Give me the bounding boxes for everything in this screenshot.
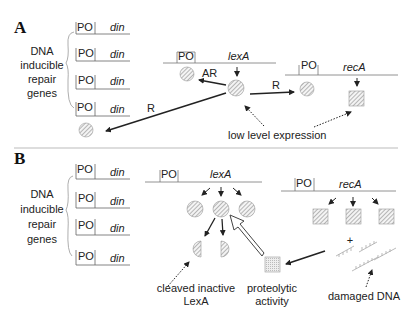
- promoter-label: PO: [301, 59, 317, 71]
- reca-gene-b: PO recA: [281, 177, 396, 191]
- promoter-label: PO: [77, 21, 93, 33]
- promoter-label: PO: [161, 168, 177, 180]
- brace-icon: [66, 176, 73, 256]
- lexa-repressor-bound-reca: [300, 82, 314, 96]
- lexa-protein: [213, 201, 229, 217]
- panel-b-group-label: DNA inducible repair genes: [20, 188, 63, 245]
- panel-a-letter: A: [14, 18, 27, 37]
- din-gene-a3: PO din: [76, 74, 130, 89]
- promoter-label: PO: [78, 47, 94, 59]
- expression-arrow: [372, 198, 378, 204]
- promoter-label: PO: [78, 192, 94, 204]
- cleaved-label-line: cleaved inactive: [157, 282, 235, 294]
- gene-label: lexA: [210, 168, 231, 180]
- promoter-label: PO: [78, 250, 94, 262]
- cleaved-lexa-half: [193, 241, 201, 257]
- hollow-cleavage-arrow: [230, 215, 264, 256]
- gene-label: din: [110, 48, 125, 60]
- lexa-protein: [228, 80, 244, 96]
- gene-label: din: [110, 166, 125, 178]
- panel-b-letter: B: [14, 149, 25, 168]
- autoregulation-label: AR: [202, 67, 217, 79]
- dotted-pointer-lexa: [245, 106, 264, 126]
- gene-label: din: [110, 195, 125, 207]
- lexa-gene-b: PO lexA: [145, 168, 262, 182]
- autoregulation-arrow: [199, 80, 226, 85]
- gene-label: din: [110, 103, 125, 115]
- cleavage-arrow: [205, 218, 215, 236]
- gene-label: din: [110, 252, 125, 264]
- promoter-label: PO: [78, 219, 94, 231]
- lexa-protein: [187, 201, 203, 217]
- gene-label: recA: [339, 178, 362, 190]
- promoter-label: PO: [178, 50, 194, 62]
- dotted-pointer-dna: [366, 270, 372, 287]
- lexa-protein: [239, 201, 255, 217]
- plus-sign: +: [347, 234, 353, 246]
- group-label-line: repair: [28, 73, 56, 85]
- cleavage-arrow: [222, 219, 223, 235]
- brace-icon: [66, 32, 74, 108]
- panel-a-group-label: DNA inducible repair genes: [20, 45, 63, 99]
- group-label-line: inducible: [20, 203, 63, 215]
- repression-arrow-reca: [250, 92, 294, 94]
- expression-arrow: [329, 198, 336, 204]
- sos-response-diagram: A DNA inducible repair genes PO din PO d…: [0, 0, 411, 312]
- lexa-repressor-bound-din: [79, 123, 93, 137]
- lexa-gene-a: PO lexA: [163, 50, 276, 63]
- expression-arrow: [202, 188, 210, 195]
- din-gene-a2: PO din: [76, 47, 130, 61]
- group-label-line: genes: [27, 87, 57, 99]
- group-label-line: DNA: [30, 45, 54, 57]
- promoter-label: PO: [77, 101, 93, 113]
- expression-arrow: [233, 188, 241, 195]
- gene-label: din: [110, 21, 125, 33]
- activated-reca: [265, 257, 280, 272]
- din-gene-b4: PO din: [76, 250, 130, 265]
- reca-protein: [346, 209, 361, 224]
- din-gene-b2: PO din: [76, 192, 130, 208]
- gene-label: din: [110, 75, 125, 87]
- group-label-line: inducible: [20, 59, 63, 71]
- group-label-line: DNA: [30, 188, 54, 200]
- cleaved-lexa-half: [221, 241, 229, 257]
- gene-label: din: [110, 222, 125, 234]
- reca-gene-a: PO recA: [285, 59, 398, 75]
- group-label-line: genes: [27, 233, 57, 245]
- din-gene-b3: PO din: [76, 219, 130, 235]
- damaged-dna-icon: [336, 241, 396, 271]
- repression-label-right: R: [272, 79, 280, 91]
- din-gene-a4: PO din: [76, 101, 130, 116]
- promoter-label: PO: [77, 163, 93, 175]
- lexa-repressor-bound-lexa: [180, 67, 194, 81]
- din-gene-a1: PO din: [76, 21, 130, 34]
- dotted-pointer-reca: [314, 112, 351, 127]
- gene-label: recA: [343, 61, 366, 73]
- gene-label: lexA: [228, 50, 249, 62]
- low-expression-label: low level expression: [228, 129, 326, 141]
- proteolytic-label-line: proteolytic: [247, 282, 298, 294]
- repression-label-left: R: [147, 102, 155, 114]
- din-gene-b1: PO din: [76, 163, 130, 179]
- proteolytic-label-line: activity: [255, 295, 289, 307]
- damaged-dna-label: damaged DNA: [328, 290, 401, 302]
- promoter-label: PO: [296, 177, 312, 189]
- reca-protein: [349, 91, 364, 106]
- reca-protein: [379, 209, 394, 224]
- promoter-label: PO: [78, 74, 94, 86]
- activation-arrow: [286, 251, 325, 264]
- group-label-line: repair: [28, 218, 56, 230]
- reca-protein: [313, 209, 328, 224]
- cleaved-label-line: LexA: [183, 295, 209, 307]
